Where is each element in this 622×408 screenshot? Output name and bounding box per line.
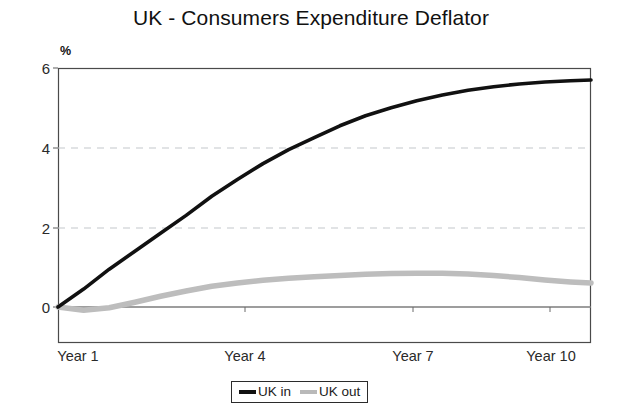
series-line-uk-out — [58, 273, 591, 310]
legend-item-uk-in: UK in — [239, 385, 291, 399]
x-axis-ticks — [78, 307, 550, 312]
line-swatch-black-icon — [239, 390, 256, 394]
chart-container: UK - Consumers Expenditure Deflator % 6 … — [0, 0, 622, 408]
y-axis-ticks — [53, 68, 58, 307]
legend-label: UK in — [258, 385, 291, 399]
line-swatch-gray-icon — [300, 390, 317, 394]
gridlines — [58, 148, 591, 228]
series-line-uk-in — [58, 80, 591, 307]
plot-area — [0, 0, 622, 408]
chart-legend: UK in UK out — [231, 381, 368, 403]
legend-item-uk-out: UK out — [300, 385, 360, 399]
legend-label: UK out — [319, 385, 360, 399]
